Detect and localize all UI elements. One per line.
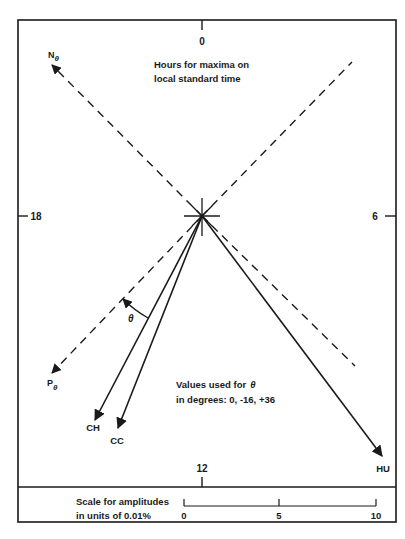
theta-note-line2: in degrees: 0, -16, +36 xyxy=(176,394,275,405)
p-theta-axis xyxy=(52,216,202,373)
hour-label-0: 0 xyxy=(199,36,205,47)
hour-ticks xyxy=(18,20,396,487)
n-theta-label: Nθ xyxy=(48,50,60,63)
hour-label-6: 6 xyxy=(372,211,378,222)
hour-label-18: 18 xyxy=(30,211,42,222)
dial-title-line1: Hours for maxima on xyxy=(154,59,249,70)
p-theta-label: Pθ xyxy=(47,378,58,392)
vectors xyxy=(95,216,382,456)
scale-label-line1: Scale for amplitudes xyxy=(76,496,169,507)
scale-tick-10: 10 xyxy=(371,510,382,521)
lower-right-axis xyxy=(202,216,355,366)
scale-tick-0: 0 xyxy=(181,510,186,521)
scale-label-line2: in units of 0.01% xyxy=(76,510,152,521)
frame xyxy=(18,20,396,522)
vector-label-hu: HU xyxy=(376,463,390,474)
dial-title-line2: local standard time xyxy=(154,73,241,84)
theta-symbol: θ xyxy=(128,313,134,324)
vector-hu xyxy=(202,216,382,456)
scale-tick-5: 5 xyxy=(276,510,282,521)
theta-note-line1: Values used forθ xyxy=(176,379,256,390)
harmonic-dial-diagram: 0 6 12 18 Hours for maxima on local stan… xyxy=(0,0,405,539)
hour-label-12: 12 xyxy=(196,463,208,474)
vector-label-ch: CH xyxy=(86,422,100,433)
upper-right-axis xyxy=(202,62,352,216)
amplitude-scale-bar xyxy=(184,499,376,506)
theta-angle-arrow xyxy=(123,299,148,318)
vector-label-cc: CC xyxy=(110,435,124,446)
n-theta-axis xyxy=(52,65,202,216)
